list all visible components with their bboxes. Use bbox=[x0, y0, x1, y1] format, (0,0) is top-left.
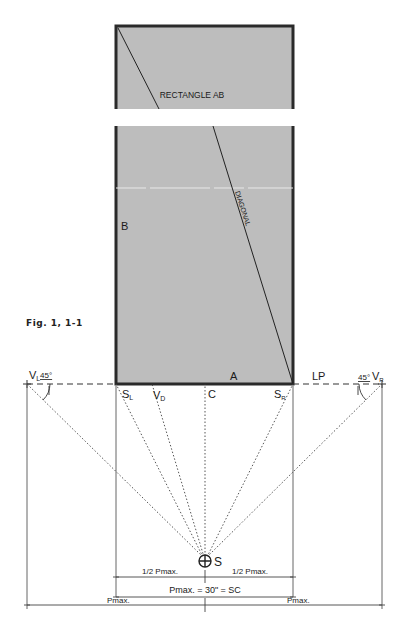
dim-half-right-label: 1/2 Pmax. bbox=[232, 567, 268, 576]
vl-label: VL bbox=[29, 369, 40, 382]
vd-label: VD bbox=[153, 389, 165, 402]
station-point bbox=[199, 555, 211, 567]
dim-outer-right-label: Pmax. bbox=[287, 596, 310, 605]
angle-arc-right-icon bbox=[359, 384, 366, 400]
vr-label: VR bbox=[372, 370, 384, 383]
rectangle-lower-part bbox=[116, 126, 293, 384]
ray-to-vl bbox=[27, 384, 203, 557]
sl-label: SL bbox=[122, 388, 133, 401]
dim-full-label: Pmax. = 30" = SC bbox=[169, 585, 241, 595]
station-point-label: S bbox=[214, 555, 222, 569]
ray-to-sr bbox=[207, 384, 293, 557]
dim-half-left-label: 1/2 Pmax. bbox=[142, 567, 178, 576]
ray-to-vd bbox=[152, 384, 204, 557]
dim-outer-left-label: Pmax. bbox=[107, 596, 130, 605]
sr-label: SR bbox=[274, 388, 286, 401]
lp-label: LP bbox=[312, 370, 325, 382]
rectangle-title: RECTANGLE AB bbox=[160, 90, 225, 100]
c-label: C bbox=[208, 388, 216, 400]
ray-to-sl bbox=[116, 384, 203, 557]
corner-a-label: A bbox=[230, 370, 238, 382]
ray-to-vr bbox=[207, 384, 382, 557]
figure-caption: Fig. 1, 1-1 bbox=[26, 318, 83, 328]
sight-rays bbox=[27, 384, 382, 557]
rectangle-ab bbox=[116, 26, 293, 384]
vl-angle-label: 45° bbox=[40, 371, 52, 380]
corner-b-label: B bbox=[121, 220, 128, 232]
vr-angle-label: 45° bbox=[358, 373, 370, 382]
